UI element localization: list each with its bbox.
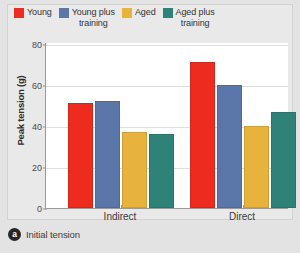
x-tick-label: Indirect: [104, 211, 137, 222]
legend-swatch-icon: [163, 8, 173, 18]
x-tick-mark: [121, 205, 122, 209]
bar[interactable]: [244, 126, 269, 208]
plot-area: Peak tension (g) 020406080 IndirectDirec…: [7, 43, 293, 220]
x-tick-mark: [243, 205, 244, 209]
legend-swatch-icon: [122, 8, 132, 18]
y-tick-label: 20: [32, 163, 42, 173]
legend-item-label: Aged plus training: [176, 7, 215, 28]
legend-item-label: Young plus training: [72, 7, 115, 28]
legend-swatch-icon: [59, 8, 69, 18]
y-tick-label: 60: [32, 81, 42, 91]
legend-swatch-icon: [14, 8, 24, 18]
y-tick-label: 0: [37, 204, 42, 214]
bar-series-group: [46, 44, 288, 208]
legend-item-label: Young: [27, 7, 52, 18]
bar[interactable]: [190, 62, 215, 208]
bar[interactable]: [122, 132, 147, 208]
axes: [45, 43, 288, 209]
caption-badge: a: [8, 228, 21, 241]
chart-legend: YoungYoung plus trainingAgedAged plus tr…: [14, 4, 286, 40]
legend-item[interactable]: Young: [14, 7, 52, 18]
y-axis-ticks: 020406080: [22, 43, 45, 209]
x-tick-label: Direct: [229, 211, 255, 222]
legend-item-label: Aged: [135, 7, 156, 18]
y-tick-label: 40: [32, 122, 42, 132]
bar[interactable]: [149, 134, 174, 208]
caption-text: Initial tension: [26, 229, 80, 240]
legend-item[interactable]: Young plus training: [59, 7, 115, 28]
legend-item[interactable]: Aged: [122, 7, 156, 18]
bar[interactable]: [95, 101, 120, 208]
legend-item[interactable]: Aged plus training: [163, 7, 215, 28]
figure-container: YoungYoung plus trainingAgedAged plus tr…: [0, 0, 300, 253]
x-axis-labels: IndirectDirect: [45, 211, 288, 227]
bar[interactable]: [217, 85, 242, 208]
caption: a Initial tension: [8, 228, 80, 241]
bar[interactable]: [271, 112, 296, 208]
y-tick-label: 80: [32, 40, 42, 50]
bar[interactable]: [68, 103, 93, 208]
